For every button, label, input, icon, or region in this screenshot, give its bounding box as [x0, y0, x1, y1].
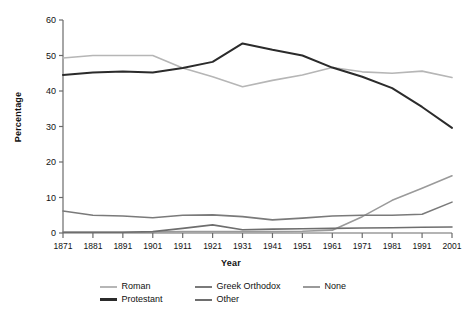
chart-container: 0102030405060187118811891190119111921193… — [0, 0, 462, 323]
legend-line-icon-other — [195, 299, 212, 301]
legend-item-greek-orthodox: Greek Orthodox — [195, 281, 303, 292]
x-tick-label: 1981 — [383, 241, 402, 251]
x-tick-label: 1971 — [353, 241, 372, 251]
x-tick-label: 1961 — [323, 241, 342, 251]
legend-item-none: None — [303, 281, 363, 292]
x-axis-title: Year — [0, 258, 462, 268]
y-tick-label: 60 — [46, 15, 56, 25]
legend-item-roman: Roman — [100, 281, 195, 292]
y-axis-title: Percentage — [13, 77, 23, 157]
y-tick-label: 20 — [46, 157, 56, 167]
x-tick-label: 1881 — [83, 241, 102, 251]
legend-line-icon-protestant — [100, 298, 117, 301]
chart-legend: Roman Greek Orthodox None Protestant Oth… — [0, 281, 462, 305]
x-tick-label: 1931 — [233, 241, 252, 251]
legend-row-1: Roman Greek Orthodox None — [100, 281, 363, 292]
x-tick-label: 1941 — [263, 241, 282, 251]
legend-label-greek-orthodox: Greek Orthodox — [217, 281, 281, 292]
legend-label-protestant: Protestant — [122, 294, 163, 305]
legend-label-roman: Roman — [122, 281, 151, 292]
y-tick-label: 30 — [46, 122, 56, 132]
legend-item-protestant: Protestant — [100, 294, 195, 305]
legend-line-icon-roman — [100, 286, 117, 288]
line-chart-plot: 0102030405060187118811891190119111921193… — [0, 0, 462, 323]
x-tick-label: 1871 — [54, 241, 73, 251]
y-tick-label: 40 — [46, 86, 56, 96]
y-tick-label: 50 — [46, 51, 56, 61]
y-tick-label: 0 — [51, 228, 56, 238]
legend-item-other: Other — [195, 294, 303, 305]
x-tick-label: 1921 — [203, 241, 222, 251]
x-tick-label: 1911 — [174, 241, 193, 251]
legend-label-other: Other — [217, 294, 240, 305]
x-tick-label: 1891 — [113, 241, 132, 251]
x-tick-label: 1901 — [143, 241, 162, 251]
series-line-greek-orthodox — [63, 202, 452, 220]
legend-line-icon-greek-orthodox — [195, 286, 212, 288]
legend-label-none: None — [325, 281, 347, 292]
series-line-none — [63, 176, 452, 232]
legend-row-2: Protestant Other — [100, 294, 363, 305]
x-tick-label: 2001 — [443, 241, 462, 251]
x-tick-label: 1951 — [293, 241, 312, 251]
legend-line-icon-none — [303, 286, 320, 288]
x-tick-label: 1991 — [413, 241, 432, 251]
y-tick-label: 10 — [46, 193, 56, 203]
